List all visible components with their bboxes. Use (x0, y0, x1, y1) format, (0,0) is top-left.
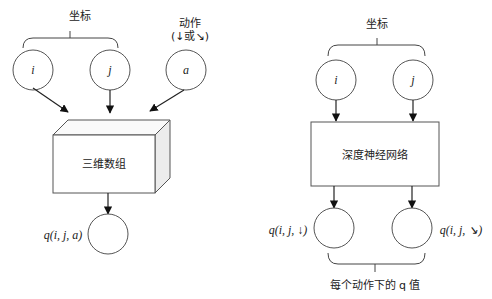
right-node-i-label: i (334, 74, 337, 86)
3d-array-box (53, 120, 170, 193)
left-action-label: 动作 (179, 18, 201, 29)
diagram-canvas (0, 0, 492, 299)
left-action-sublabel: (↓或↘) (171, 31, 209, 42)
right-output-node-diag (392, 208, 432, 248)
q-values-label: 每个动作下的 q 值 (330, 280, 421, 291)
left-coords-label: 坐标 (69, 11, 91, 22)
right-output-label-diag: q(i, j, ↘) (440, 224, 483, 236)
right-output-label-down: q(i, j, ↓) (269, 224, 308, 236)
right-q-values-brace (328, 253, 425, 272)
left-node-a-label: a (183, 64, 189, 76)
arrow-a-to-array (150, 90, 184, 111)
right-output-node-down (314, 208, 354, 248)
left-node-i-label: i (31, 64, 34, 76)
right-node-j-label: j (411, 74, 414, 86)
right-coords-brace (328, 38, 425, 56)
left-node-j-label: j (108, 64, 111, 76)
right-coords-label: 坐标 (366, 19, 388, 30)
3d-array-label: 三维数组 (82, 159, 126, 170)
left-output-node (88, 214, 128, 254)
left-coords-brace (23, 31, 118, 48)
arrow-i-to-array (33, 88, 68, 112)
left-output-label: q(i, j, a) (44, 229, 83, 241)
dnn-label: 深度神经网络 (342, 150, 408, 161)
